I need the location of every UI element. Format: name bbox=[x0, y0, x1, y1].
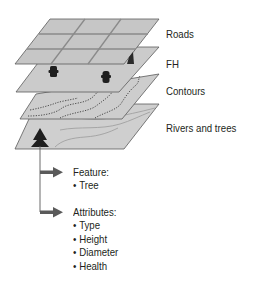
layer-stack-diagram bbox=[0, 0, 257, 291]
attribute-item-height: Height bbox=[73, 233, 118, 246]
feature-list: Tree bbox=[73, 179, 109, 192]
layer-label-rivers-and-trees: Rivers and trees bbox=[166, 122, 236, 134]
arrow-right-icon bbox=[40, 167, 63, 178]
layer-label-fh: FH bbox=[166, 58, 179, 70]
attributes-list: Type Height Diameter Health bbox=[73, 219, 118, 273]
feature-item: Tree bbox=[73, 179, 109, 192]
layer-label-roads: Roads bbox=[166, 28, 194, 40]
arrow-right-icon bbox=[40, 207, 63, 218]
layer-label-contours: Contours bbox=[166, 85, 205, 97]
attribute-item-diameter: Diameter bbox=[73, 246, 118, 259]
feature-connector bbox=[40, 146, 63, 218]
attribute-item-type: Type bbox=[73, 219, 118, 232]
attributes-info: Attributes: Type Height Diameter Health bbox=[73, 206, 118, 273]
fire-hydrant-icon bbox=[49, 66, 59, 77]
attributes-heading: Attributes: bbox=[73, 206, 118, 219]
attribute-item-health: Health bbox=[73, 260, 118, 273]
feature-heading: Feature: bbox=[73, 166, 109, 179]
feature-info: Feature: Tree bbox=[73, 166, 109, 193]
